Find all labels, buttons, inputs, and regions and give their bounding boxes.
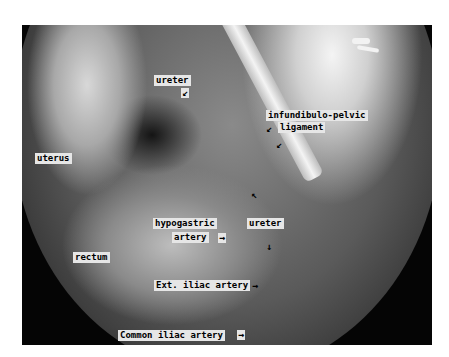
arrow-up-icon: ↖ [251, 190, 257, 200]
label-rectum: rectum [73, 252, 110, 263]
arrow-icon: → [218, 233, 226, 243]
label-hypogastric: hypogastric [153, 218, 217, 229]
label-common-iliac-artery: Common iliac artery [118, 330, 225, 341]
arrow-down-icon: ↓ [266, 242, 272, 252]
label-uterus: uterus [35, 153, 72, 164]
arrow-icon: ↙ [266, 124, 272, 134]
arrow-icon: → [237, 330, 245, 340]
label-infundibulo-pelvic: infundibulo-pelvic [266, 110, 368, 121]
arrow-icon: ↙ [276, 140, 282, 150]
scope-field-of-view [22, 25, 432, 345]
arrow-icon: ↙ [181, 88, 189, 98]
label-hypogastric-artery: artery [172, 232, 209, 243]
label-ureter-lower: ureter [247, 218, 284, 229]
instrument-tip-glint [352, 38, 370, 44]
arrow-icon: → [252, 281, 258, 291]
label-ureter-upper: ureter [154, 75, 191, 86]
laparoscopic-photo [22, 25, 432, 345]
label-ext-iliac-artery: Ext. iliac artery [154, 280, 250, 291]
label-ligament: ligament [278, 122, 325, 133]
